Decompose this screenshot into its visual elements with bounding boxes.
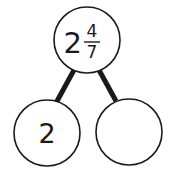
fraction-denominator: 7: [87, 42, 98, 62]
right-connector-line: [99, 70, 116, 101]
whole-number: 2: [64, 26, 82, 60]
left-part-label: 2: [38, 118, 55, 149]
left-connector-line: [56, 70, 74, 103]
right-part-circle[interactable]: [96, 99, 162, 165]
number-bond-diagram: 2 4 7 2: [0, 0, 169, 177]
fraction-numerator: 4: [87, 21, 98, 41]
number-bond-svg: 2 4 7 2: [0, 0, 169, 177]
